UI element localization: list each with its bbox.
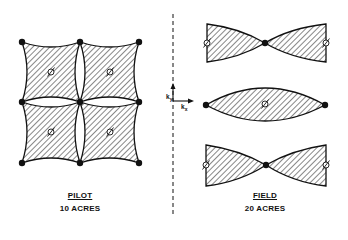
field-pattern xyxy=(203,24,330,186)
injector-well-icon xyxy=(203,102,209,108)
injector-well-icon xyxy=(77,39,83,45)
injector-well-icon xyxy=(136,39,142,45)
injector-well-icon xyxy=(322,102,328,108)
injector-well-icon xyxy=(136,99,142,105)
permeability-axes xyxy=(171,83,195,104)
field-title: FIELD xyxy=(225,191,305,200)
pilot-title: PILOT xyxy=(40,191,120,200)
injector-well-icon xyxy=(136,160,142,166)
injector-well-icon xyxy=(77,99,83,105)
injector-well-icon xyxy=(19,99,25,105)
injector-well-icon xyxy=(19,39,25,45)
pilot-acreage: 10 ACRES xyxy=(40,204,120,213)
pilot-pattern xyxy=(19,39,142,166)
injector-well-icon xyxy=(263,162,269,168)
injector-well-icon xyxy=(77,160,83,166)
injector-well-icon xyxy=(19,160,25,166)
kx-arrow-icon xyxy=(188,99,194,104)
ky-label: ky xyxy=(166,93,173,102)
kx-label: kx xyxy=(181,103,188,112)
ky-arrow-icon xyxy=(171,83,176,89)
injector-well-icon xyxy=(262,40,268,46)
field-acreage: 20 ACRES xyxy=(225,204,305,213)
